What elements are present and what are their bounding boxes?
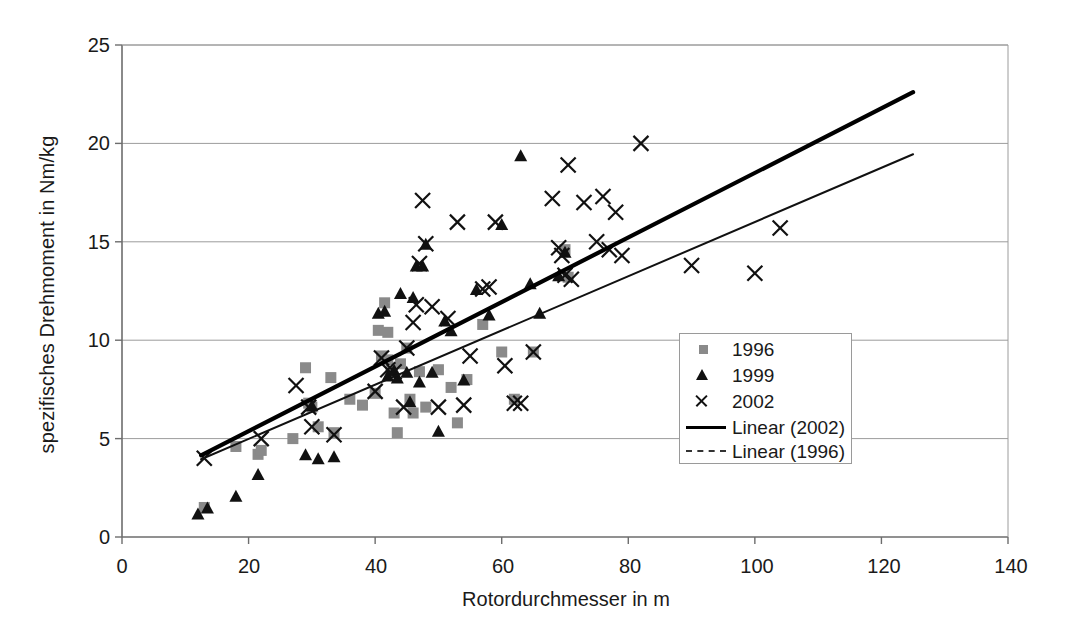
solid-line-icon bbox=[680, 414, 732, 440]
cross-marker-icon bbox=[680, 388, 732, 414]
legend-label-linear-1996: Linear (1996) bbox=[732, 442, 845, 461]
dashed-line-icon bbox=[680, 438, 732, 464]
legend-label-1996: 1996 bbox=[732, 340, 774, 359]
triangle-marker-icon bbox=[680, 362, 732, 388]
legend: 1996 1999 2002 Linear (2002) Linear (199… bbox=[679, 333, 852, 464]
plot-frame bbox=[122, 45, 1008, 537]
axis-ticks bbox=[115, 45, 1008, 544]
legend-label-linear-2002: Linear (2002) bbox=[732, 418, 845, 437]
chart-figure: spezifisches Drehmoment in Nm/kg Rotordu… bbox=[0, 0, 1079, 628]
plot-area bbox=[0, 0, 1079, 628]
legend-label-2002: 2002 bbox=[732, 392, 774, 411]
square-marker-icon bbox=[680, 336, 732, 362]
legend-label-1999: 1999 bbox=[732, 366, 774, 385]
